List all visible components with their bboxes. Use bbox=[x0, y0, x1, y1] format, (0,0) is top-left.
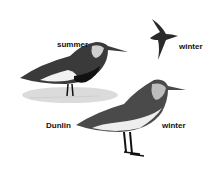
winter-standing-label: winter bbox=[162, 121, 186, 130]
flying-bird bbox=[150, 19, 178, 60]
winter-flying-label: winter bbox=[179, 42, 203, 51]
ground-shadow bbox=[22, 87, 118, 103]
species-name-label: Dunlin bbox=[46, 121, 71, 130]
summer-label: summer bbox=[57, 40, 88, 49]
dunlin-drawing bbox=[0, 0, 212, 170]
